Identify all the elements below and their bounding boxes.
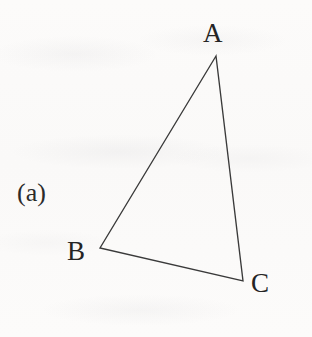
figure-panel-a: A B C (a) [0, 0, 312, 337]
vertex-label-c: C [251, 270, 269, 297]
vertex-label-b: B [67, 238, 85, 265]
vertex-label-a: A [203, 20, 223, 47]
panel-caption: (a) [17, 180, 46, 206]
triangle-outline [100, 56, 243, 281]
